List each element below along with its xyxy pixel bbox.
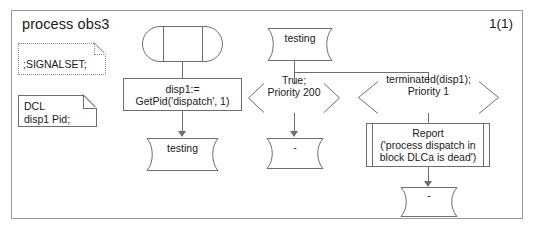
procedure-bar-left-icon [372,123,373,167]
state-symbol-dash-left[interactable]: - [255,138,335,169]
signalset-symbol[interactable]: ;SIGNALSET; [18,43,106,75]
connector-input-to-procedure [428,113,429,123]
state-shape [133,138,232,171]
procedure-bar-right-icon [483,123,484,167]
state-symbol-dash-right[interactable]: - [389,187,469,217]
procedure-call-symbol[interactable]: Report ('process dispatch in block DLCa … [366,123,490,167]
input-chevron-shape [248,83,340,113]
dcl-symbol[interactable]: DCL disp1 Pid; [18,95,97,127]
task-symbol[interactable]: disp1:= GetPid('dispatch', 1) [123,78,242,111]
state-symbol-testing-left[interactable]: testing [133,138,232,171]
start-symbol[interactable] [142,26,223,62]
page-number: 1(1) [489,16,513,31]
connector-task-to-state [182,111,183,133]
state-shape [255,138,335,169]
state-symbol-testing-top[interactable]: testing [255,28,345,61]
connector-start-to-task [182,62,183,78]
arrowhead-icon [290,131,298,137]
procedure-label: Report ('process dispatch in block DLCa … [367,127,489,163]
folded-corner-icon [94,43,106,55]
input-chevron-shape [358,81,499,114]
arrowhead-icon [178,131,186,137]
connector-input-to-state-left [294,113,295,133]
sdl-diagram-canvas: process obs3 1(1) ;SIGNALSET; DCL disp1 … [0,0,535,231]
start-bar-right-icon [202,26,203,62]
page-title: process obs3 [22,16,109,32]
signalset-label: ;SIGNALSET; [19,58,105,70]
folded-corner-icon [83,95,97,109]
state-shape [389,187,469,217]
start-bar-left-icon [163,26,164,62]
input-symbol-terminated[interactable]: terminated(disp1); Priority 1 [358,81,499,114]
input-symbol-true[interactable]: True; Priority 200 [248,83,340,113]
connector-branch-horizontal [294,72,428,73]
task-label: disp1:= GetPid('dispatch', 1) [124,83,241,107]
connector-branch-left [294,72,295,83]
state-shape [255,28,345,61]
